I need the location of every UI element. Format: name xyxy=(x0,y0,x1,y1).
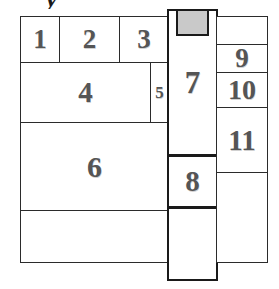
region-4-label: 4 xyxy=(78,78,93,107)
region-1[interactable]: 1 xyxy=(20,16,60,63)
region-6-lower-blank[interactable] xyxy=(20,210,169,263)
region-11[interactable]: 11 xyxy=(216,107,268,173)
region-9[interactable]: 9 xyxy=(216,44,268,73)
region-10[interactable]: 10 xyxy=(216,72,268,108)
clipped-glyph: y xyxy=(47,0,57,9)
region-10-label: 10 xyxy=(228,76,256,104)
region-8-lower-blank[interactable] xyxy=(167,207,218,281)
region-2-label: 2 xyxy=(83,26,97,53)
highlighted-handle-box[interactable] xyxy=(176,9,209,36)
region-11-lower-blank[interactable] xyxy=(216,172,268,263)
region-4[interactable]: 4 xyxy=(20,62,151,123)
region-3-label: 3 xyxy=(137,26,151,53)
region-9-upper-blank[interactable] xyxy=(216,16,268,45)
region-1-label: 1 xyxy=(33,26,47,53)
region-7-label: 7 xyxy=(185,67,201,98)
region-6-label: 6 xyxy=(87,152,102,182)
region-9-label: 9 xyxy=(235,45,249,72)
region-3[interactable]: 3 xyxy=(119,16,169,63)
region-8-label: 8 xyxy=(185,167,200,196)
region-8[interactable]: 8 xyxy=(167,155,218,208)
region-11-label: 11 xyxy=(228,126,255,155)
clipped-text-descender: y xyxy=(47,0,57,9)
region-6[interactable]: 6 xyxy=(20,122,169,211)
layout-diagram: y 1 2 3 4 5 6 7 8 9 10 11 xyxy=(0,0,279,289)
region-2[interactable]: 2 xyxy=(59,16,120,63)
region-5-label: 5 xyxy=(155,84,164,101)
